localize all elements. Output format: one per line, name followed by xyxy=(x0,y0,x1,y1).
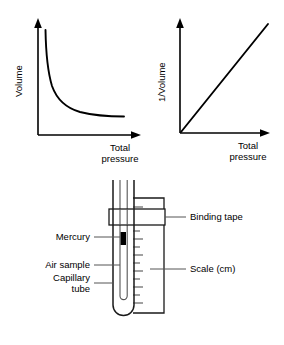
label-capillary-line1: Capillary xyxy=(53,272,90,283)
label-mercury: Mercury xyxy=(56,231,91,242)
binding-tape xyxy=(109,209,165,225)
mercury-plug xyxy=(121,232,126,245)
chart-inverse-volume-vs-pressure: 1/Volume Total pressure xyxy=(146,5,284,175)
label-air-sample: Air sample xyxy=(45,259,90,270)
x-axis-arrowhead xyxy=(260,129,270,137)
x-axis-label-line1: Total xyxy=(238,140,258,151)
y-axis-label: 1/Volume xyxy=(156,62,167,102)
y-axis-label: Volume xyxy=(13,65,24,97)
data-line-linear xyxy=(181,24,268,132)
label-capillary-line2: tube xyxy=(72,283,91,294)
data-curve-hyperbola xyxy=(46,30,125,117)
y-axis xyxy=(34,18,42,135)
y-axis-arrowhead xyxy=(176,18,184,28)
y-axis-arrowhead xyxy=(34,18,42,28)
apparatus-diagram: Mercury Air sample Capillary tube Bindin… xyxy=(0,172,284,345)
x-axis xyxy=(38,131,141,139)
chart-volume-vs-pressure: Volume Total pressure xyxy=(0,5,150,175)
figure-root: Volume Total pressure 1/Volume Total pre… xyxy=(0,0,284,345)
x-axis-arrowhead xyxy=(131,131,141,139)
label-binding-tape: Binding tape xyxy=(190,211,243,222)
x-axis-label-line2: pressure xyxy=(102,153,139,164)
label-scale: Scale (cm) xyxy=(190,263,235,274)
x-axis-label-line2: pressure xyxy=(230,151,267,162)
x-axis-label-line1: Total xyxy=(110,142,130,153)
outer-tube xyxy=(113,180,134,316)
y-axis xyxy=(176,18,184,133)
x-axis xyxy=(180,129,270,137)
